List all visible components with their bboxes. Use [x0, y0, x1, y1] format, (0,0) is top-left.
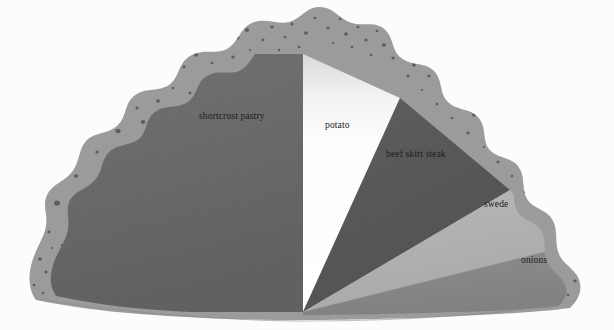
- pasty-chart-svg: [0, 0, 614, 330]
- pie-slices-group: [45, 54, 575, 318]
- pasty-pie-chart-figure: shortcrust pastry potato beef skirt stea…: [0, 0, 614, 330]
